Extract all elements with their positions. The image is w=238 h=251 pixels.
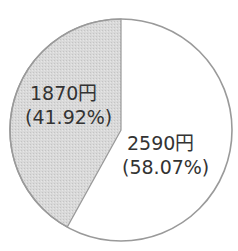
slice-label-amount-1870: 1870円 [30,82,97,104]
slice-label-amount-2590: 2590円 [127,132,194,154]
slice-label-percent-1870: (41.92%) [25,106,112,128]
slice-label-percent-2590: (58.07%) [122,156,209,178]
pie-chart: 1870円 (41.92%) 2590円 (58.07%) [0,0,238,251]
